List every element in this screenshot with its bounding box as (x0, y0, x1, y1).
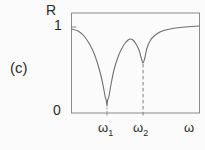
omega2-subscript: 2 (143, 128, 148, 138)
omega2-symbol: ω (133, 120, 143, 135)
x-tick-label-omega2: ω2 (133, 121, 148, 138)
figure-panel-c: (c) R 1 0 ω1 ω2 ω (0, 0, 205, 150)
x-axis-label: ω (184, 121, 194, 134)
reflectance-curve (72, 26, 200, 106)
x-tick-label-omega1: ω1 (98, 121, 113, 138)
omega1-subscript: 1 (108, 128, 113, 138)
omega1-symbol: ω (98, 120, 108, 135)
